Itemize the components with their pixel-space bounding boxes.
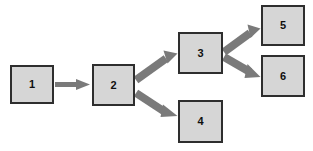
node-5[interactable]: 5 (261, 5, 305, 46)
diagram-canvas: 1 2 3 4 5 6 (0, 0, 313, 151)
edge-3-to-6 (224, 57, 261, 78)
edge-1-to-2 (55, 79, 90, 90)
node-4-label: 4 (197, 116, 203, 127)
node-3[interactable]: 3 (178, 32, 223, 74)
edge-3-to-5 (224, 25, 261, 53)
node-4[interactable]: 4 (178, 100, 223, 143)
node-3-label: 3 (197, 48, 203, 59)
node-1[interactable]: 1 (10, 65, 54, 104)
edge-2-to-3 (136, 51, 178, 81)
node-1-label: 1 (29, 79, 35, 90)
node-6-label: 6 (280, 71, 286, 82)
node-5-label: 5 (280, 20, 286, 31)
edge-2-to-4 (136, 93, 178, 117)
node-2-label: 2 (110, 80, 116, 91)
node-6[interactable]: 6 (261, 55, 305, 97)
node-2[interactable]: 2 (92, 64, 135, 106)
